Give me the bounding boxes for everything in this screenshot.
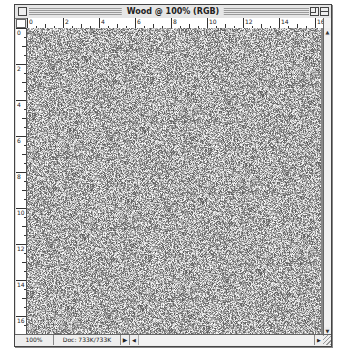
ruler-tick [24,145,26,146]
ruler-tick [24,325,26,326]
document-window: Wood @ 100% (RGB) 0246810121416 02468101… [14,4,332,347]
ruler-tick [24,109,26,110]
ruler-tick [24,163,26,164]
ruler-tick [279,18,280,28]
ruler-tick [135,18,136,28]
close-box[interactable] [18,7,27,16]
window-title: Wood @ 100% (RGB) [122,5,224,18]
ruler-label: 16 [17,318,25,324]
status-menu-arrow-icon[interactable]: ▶ [121,335,130,345]
ruler-tick [24,217,26,218]
ruler-tick [24,307,26,308]
scroll-right-arrow-icon[interactable]: ▶ [314,335,323,345]
ruler-tick [24,235,26,236]
zoom-box[interactable] [310,7,319,16]
ruler-label: 14 [281,18,289,25]
ruler-tick [24,91,26,92]
ruler-tick [22,298,26,299]
ruler-tick [22,118,26,119]
image-canvas[interactable] [27,28,324,335]
ruler-label: 12 [245,18,253,25]
collapse-box[interactable] [320,7,329,16]
ruler-label: 8 [17,174,21,180]
ruler-tick [24,199,26,200]
ruler-label: 12 [17,246,25,252]
ruler-label: 4 [17,102,21,108]
ruler-label: 6 [17,138,21,144]
ruler-tick [24,127,26,128]
ruler-label: 2 [17,66,21,72]
zoom-level-field[interactable]: 100% [15,335,54,345]
ruler-tick [63,18,64,28]
ruler-label: 8 [173,18,177,25]
ruler-tick [24,289,26,290]
status-bar: 100% Doc: 733K/733K ▶ ◀ ▶ [15,334,331,346]
ruler-tick [22,46,26,47]
document-size-info: Doc: 733K/733K [54,335,121,345]
ruler-label: 10 [17,210,25,216]
ruler-tick [22,190,26,191]
ruler-tick [315,18,316,28]
ruler-origin-corner[interactable] [16,19,26,28]
scroll-up-arrow-icon[interactable]: ▲ [324,28,331,36]
title-bar[interactable]: Wood @ 100% (RGB) [15,5,331,19]
ruler-label: 4 [101,18,105,25]
ruler-tick [243,18,244,28]
scroll-left-arrow-icon[interactable]: ◀ [130,335,139,345]
vertical-ruler[interactable]: 0246810121416 [16,28,27,335]
vertical-scrollbar[interactable]: ▲ ▼ [323,18,331,335]
ruler-tick [99,18,100,28]
ruler-tick [24,181,26,182]
ruler-tick [171,18,172,28]
ruler-tick [24,37,26,38]
ruler-tick [22,82,26,83]
ruler-tick [24,73,26,74]
ruler-tick [22,262,26,263]
ruler-tick [24,271,26,272]
ruler-label: 6 [137,18,141,25]
horizontal-scrollbar[interactable] [139,335,315,345]
ruler-tick [22,154,26,155]
ruler-tick [22,226,26,227]
ruler-tick [24,55,26,56]
ruler-label: 0 [17,30,21,36]
ruler-label: 14 [17,282,25,288]
ruler-tick [27,18,28,28]
ruler-label: 0 [29,18,33,25]
resize-grow-box[interactable] [323,335,331,345]
ruler-tick [24,253,26,254]
ruler-tick [207,18,208,28]
ruler-label: 10 [209,18,217,25]
ruler-label: 2 [65,18,69,25]
